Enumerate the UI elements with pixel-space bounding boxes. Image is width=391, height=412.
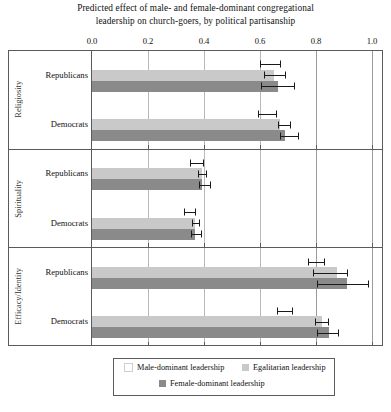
bar-female-dominant [92,130,285,141]
confidence-interval-line [199,185,210,186]
x-tick-label: 0.6 [255,36,266,46]
x-tickmark [148,342,149,346]
confidence-interval-line [317,333,337,334]
confidence-interval-line [280,136,298,137]
gridline [260,150,261,247]
legend-swatch-male-icon [124,363,133,372]
bar-egalitarian [92,119,280,130]
confidence-interval-line [258,114,276,115]
legend-label: Male-dominant leadership [137,363,224,372]
panel-label-religiosity: Religiosity [14,56,44,143]
legend-label: Egalitarian leadership [253,363,326,372]
confidence-interval-cap-high [276,110,277,117]
x-tickmark [316,342,317,346]
panel-label-spirituality: Spirituality [14,155,44,242]
confidence-interval-line [190,163,203,164]
chart-container: Predicted effect of male- and female-dom… [0,0,391,412]
confidence-interval-cap-low [317,280,318,287]
legend-swatch-female-icon [159,380,166,387]
legend-swatch-egal-icon [242,364,249,371]
confidence-interval-cap-low [317,329,318,336]
x-tick-label: 0.4 [199,36,210,46]
gridline [316,150,317,247]
bar-female-dominant [92,179,202,190]
confidence-interval-line [192,223,199,224]
chart-legend: Male-dominant leadershipEgalitarian lead… [113,358,335,396]
confidence-interval-cap-low [258,110,259,117]
legend-item-female[interactable]: Female-dominant leadership [159,379,265,388]
confidence-interval-line [184,212,195,213]
bar-egalitarian [92,70,274,81]
confidence-interval-cap-high [368,280,369,287]
confidence-interval-cap-low [260,61,261,68]
legend-item-male[interactable]: Male-dominant leadership [124,363,224,372]
bar-female-dominant [92,229,195,240]
confidence-interval-cap-high [324,258,325,265]
confidence-interval-line [260,64,280,65]
confidence-interval-cap-low [199,181,200,188]
legend-label: Female-dominant leadership [170,379,265,388]
chart-title-line-2: leadership on church-goers, by political… [0,15,391,28]
chart-title: Predicted effect of male- and female-dom… [0,2,391,27]
confidence-interval-cap-high [206,170,207,177]
confidence-interval-cap-high [338,329,339,336]
confidence-interval-cap-low [308,258,309,265]
confidence-interval-cap-high [201,231,202,238]
confidence-interval-cap-low [190,159,191,166]
x-tick-label: 1.0 [367,36,378,46]
confidence-interval-cap-low [315,318,316,325]
confidence-interval-cap-high [199,220,200,227]
x-tickmark [260,342,261,346]
bar-egalitarian [92,267,337,278]
panel-separator [8,149,383,150]
confidence-interval-cap-low [313,269,314,276]
confidence-interval-cap-low [191,231,192,238]
confidence-interval-cap-low [198,170,199,177]
group-label-republicans: Republicans [46,267,88,277]
confidence-interval-cap-high [195,209,196,216]
confidence-interval-line [264,75,285,76]
bar-egalitarian [92,168,202,179]
group-label-republicans: Republicans [46,70,88,80]
confidence-interval-line [198,174,206,175]
confidence-interval-line [315,322,328,323]
group-label-democrats: Democrats [51,316,88,326]
confidence-interval-cap-low [278,121,279,128]
confidence-interval-line [308,262,324,263]
confidence-interval-cap-low [280,132,281,139]
confidence-interval-line [313,273,347,274]
gridline [316,51,317,148]
bar-female-dominant [92,278,347,289]
group-label-democrats: Democrats [51,119,88,129]
confidence-interval-line [277,311,292,312]
legend-item-egal[interactable]: Egalitarian leadership [242,363,326,372]
confidence-interval-cap-high [328,318,329,325]
confidence-interval-cap-low [184,209,185,216]
confidence-interval-line [261,86,294,87]
confidence-interval-cap-high [285,72,286,79]
confidence-interval-line [278,125,290,126]
panel-separator [8,247,383,248]
gridline [372,248,373,345]
x-tick-label: 0.2 [143,36,154,46]
confidence-interval-line [317,284,367,285]
x-tick-label: 0.0 [87,36,98,46]
confidence-interval-cap-high [347,269,348,276]
x-axis-tick-labels: 0.00.20.40.60.81.0 [0,36,391,50]
group-label-democrats: Democrats [51,218,88,228]
gridline [372,51,373,148]
confidence-interval-cap-low [192,220,193,227]
bar-female-dominant [92,81,278,92]
gridline [204,150,205,247]
gridline [372,150,373,247]
group-label-republicans: Republicans [46,168,88,178]
confidence-interval-cap-low [261,83,262,90]
panel-label-efficacy-identity: Efficacy/Identity [14,253,44,340]
confidence-interval-cap-high [280,61,281,68]
confidence-interval-cap-high [294,83,295,90]
bar-female-dominant [92,327,329,338]
x-tickmark [204,342,205,346]
chart-title-line-1: Predicted effect of male- and female-dom… [0,2,391,15]
bar-egalitarian [92,218,195,229]
confidence-interval-cap-high [290,121,291,128]
